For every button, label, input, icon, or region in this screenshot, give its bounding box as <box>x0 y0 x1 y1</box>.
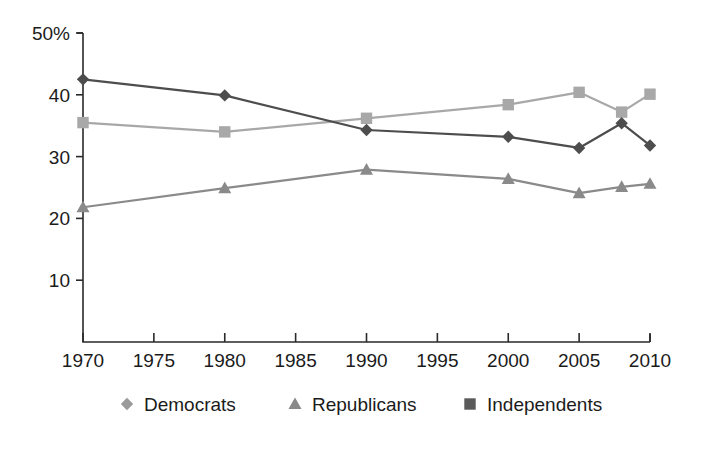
axis-path <box>83 33 650 342</box>
y-axis-tick-label: 50% <box>32 23 70 44</box>
data-point-republicans-2010 <box>643 177 656 189</box>
y-axis-tick-label: 30 <box>49 147 70 168</box>
legend-square-icon <box>464 398 475 409</box>
legend-label-republicans: Republicans <box>312 394 417 415</box>
series-line-republicans <box>83 170 650 208</box>
x-axis-tick-group: 197019751980198519901995200020052010 <box>62 333 671 371</box>
data-point-independents-2000 <box>503 99 514 110</box>
legend-item-republicans[interactable]: Republicans <box>288 394 416 415</box>
x-axis-tick-label: 2005 <box>558 350 600 371</box>
x-axis-tick-label: 1980 <box>204 350 246 371</box>
data-point-democrats-1990 <box>360 124 372 136</box>
y-axis-tick-label: 20 <box>49 208 70 229</box>
y-axis-tick-label: 40 <box>49 85 70 106</box>
x-axis-tick-label: 2010 <box>629 350 671 371</box>
chart-canvas: 50%40302010 1970197519801985199019952000… <box>0 0 704 454</box>
x-axis-tick-label: 1970 <box>62 350 104 371</box>
x-axis-tick-label: 1990 <box>345 350 387 371</box>
x-axis-tick-label: 1995 <box>416 350 458 371</box>
x-axis-tick-label: 1975 <box>133 350 175 371</box>
data-point-independents-1970 <box>77 117 88 128</box>
party-identification-line-chart: 50%40302010 1970197519801985199019952000… <box>0 0 704 454</box>
data-point-independents-2005 <box>573 87 584 98</box>
data-point-independents-1980 <box>219 126 230 137</box>
y-axis-tick-label: 10 <box>49 270 70 291</box>
x-axis-tick-label: 1985 <box>274 350 316 371</box>
y-axis-tick-group: 50%40302010 <box>32 23 83 291</box>
legend-item-democrats[interactable]: Democrats <box>121 394 236 415</box>
legend-diamond-icon <box>121 398 133 410</box>
series-layer <box>76 73 656 212</box>
legend-item-independents[interactable]: Independents <box>464 394 602 415</box>
series-republicans <box>76 163 656 212</box>
data-point-independents-1990 <box>361 113 372 124</box>
data-point-independents-2010 <box>644 88 655 99</box>
legend-label-democrats: Democrats <box>144 394 236 415</box>
legend-label-independents: Independents <box>487 394 602 415</box>
x-axis-tick-label: 2000 <box>487 350 529 371</box>
data-point-democrats-2000 <box>502 131 514 143</box>
data-point-democrats-2005 <box>573 142 585 154</box>
data-point-democrats-1980 <box>219 89 231 101</box>
legend-triangle-icon <box>288 397 301 409</box>
axis-lines <box>77 33 650 342</box>
chart-legend: DemocratsRepublicansIndependents <box>121 394 602 415</box>
data-point-independents-2008 <box>616 106 627 117</box>
data-point-democrats-1970 <box>77 73 89 85</box>
